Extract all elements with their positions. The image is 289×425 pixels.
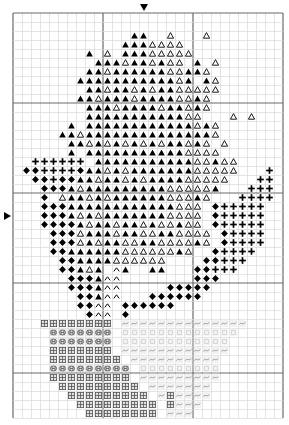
top-center-marker [140, 4, 148, 11]
pattern-grid-canvas [0, 0, 289, 425]
left-center-marker [4, 212, 11, 220]
cross-stitch-pattern-chart [0, 0, 289, 425]
